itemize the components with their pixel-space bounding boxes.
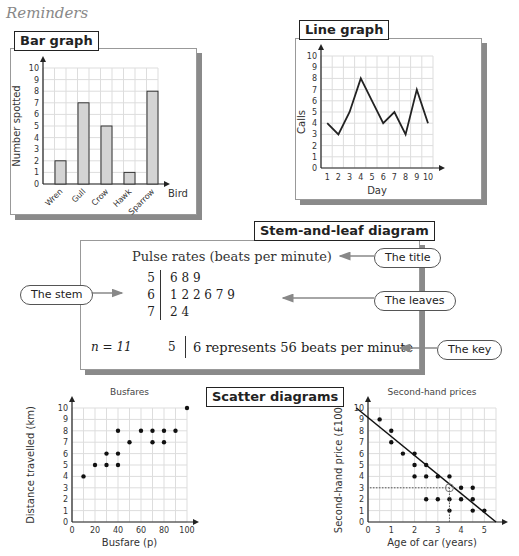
svg-text:5: 5: [63, 461, 68, 470]
svg-text:9: 9: [414, 173, 419, 182]
svg-text:8: 8: [359, 427, 364, 436]
svg-text:0: 0: [365, 526, 370, 535]
svg-text:10: 10: [29, 64, 39, 73]
svg-text:1: 1: [389, 526, 394, 535]
svg-text:2: 2: [312, 142, 317, 151]
svg-text:40: 40: [113, 526, 123, 535]
svg-text:10: 10: [354, 404, 364, 413]
callout-title: The title: [374, 248, 441, 268]
svg-text:3: 3: [347, 173, 352, 182]
svg-text:4: 4: [459, 526, 464, 535]
svg-text:6: 6: [359, 450, 364, 459]
svg-text:2: 2: [63, 495, 68, 504]
svg-text:Busfares: Busfares: [110, 387, 149, 397]
svg-text:3: 3: [312, 130, 317, 139]
svg-text:7: 7: [34, 99, 39, 108]
svg-text:2: 2: [336, 173, 341, 182]
svg-text:3: 3: [63, 484, 68, 493]
svg-text:4: 4: [312, 119, 317, 128]
svg-text:80: 80: [159, 526, 169, 535]
svg-text:6: 6: [63, 450, 68, 459]
callout-key: The key: [437, 340, 502, 360]
svg-text:Busfare (p): Busfare (p): [102, 537, 158, 548]
svg-text:Second-hand price (£1000): Second-hand price (£1000): [333, 397, 344, 534]
svg-text:6: 6: [312, 97, 317, 106]
svg-text:0: 0: [63, 518, 68, 527]
svg-text:8: 8: [312, 74, 317, 83]
callout-leaves: The leaves: [374, 291, 456, 311]
svg-text:3: 3: [435, 526, 440, 535]
svg-text:9: 9: [34, 76, 39, 85]
svg-text:0: 0: [312, 164, 317, 173]
callout-stem: The stem: [20, 285, 93, 305]
svg-text:Second-hand prices: Second-hand prices: [388, 387, 477, 397]
line-graph-tag: Line graph: [299, 20, 389, 40]
svg-text:5: 5: [34, 122, 39, 131]
svg-text:10: 10: [58, 404, 68, 413]
svg-text:7: 7: [312, 86, 317, 95]
svg-text:20: 20: [90, 526, 100, 535]
svg-text:Crow: Crow: [90, 187, 111, 208]
svg-text:4: 4: [359, 472, 364, 481]
stem-leaf-tag: Stem-and-leaf diagram: [254, 221, 435, 241]
svg-text:Age of car (years): Age of car (years): [387, 537, 477, 548]
svg-text:7: 7: [359, 438, 364, 447]
svg-text:5: 5: [369, 173, 374, 182]
svg-text:3: 3: [359, 484, 364, 493]
svg-text:1: 1: [359, 507, 364, 516]
svg-text:6: 6: [381, 173, 386, 182]
svg-text:1: 1: [312, 153, 317, 162]
secondhand-scatter: Second-hand prices012345678910012345Age …: [330, 383, 519, 553]
svg-text:5: 5: [312, 108, 317, 117]
svg-text:Wren: Wren: [43, 187, 64, 208]
svg-text:5: 5: [359, 461, 364, 470]
page-heading: Reminders: [6, 4, 88, 22]
svg-text:0: 0: [69, 526, 74, 535]
svg-text:8: 8: [63, 427, 68, 436]
line-chart: 01234567891012345678910DayCalls: [295, 38, 485, 203]
svg-text:2: 2: [359, 495, 364, 504]
svg-text:100: 100: [179, 526, 194, 535]
svg-text:8: 8: [34, 87, 39, 96]
svg-text:2: 2: [34, 157, 39, 166]
svg-text:Day: Day: [367, 185, 387, 196]
svg-text:Number spotted: Number spotted: [11, 85, 22, 166]
svg-text:1: 1: [34, 168, 39, 177]
svg-text:7: 7: [63, 438, 68, 447]
svg-text:1: 1: [63, 507, 68, 516]
svg-text:Distance travelled (km): Distance travelled (km): [25, 406, 36, 524]
svg-text:8: 8: [403, 173, 408, 182]
svg-text:6: 6: [34, 110, 39, 119]
svg-text:60: 60: [136, 526, 146, 535]
svg-text:9: 9: [312, 63, 317, 72]
svg-text:9: 9: [359, 415, 364, 424]
svg-text:0: 0: [359, 518, 364, 527]
svg-text:3: 3: [34, 145, 39, 154]
svg-text:0: 0: [34, 180, 39, 189]
svg-text:Calls: Calls: [296, 110, 307, 134]
bar-chart: 012345678910WrenGullCrowHawkSparrowBirdN…: [10, 48, 200, 218]
svg-text:9: 9: [63, 415, 68, 424]
bar-graph-tag: Bar graph: [14, 31, 99, 51]
svg-text:10: 10: [423, 173, 433, 182]
svg-text:5: 5: [482, 526, 487, 535]
svg-text:4: 4: [63, 472, 68, 481]
svg-text:Sparrow: Sparrow: [127, 187, 157, 217]
svg-text:Gull: Gull: [70, 187, 87, 204]
svg-text:7: 7: [392, 173, 397, 182]
svg-text:Bird: Bird: [168, 188, 188, 199]
busfares-scatter: Busfares012345678910020406080100Busfare …: [20, 383, 210, 553]
svg-text:1: 1: [325, 173, 330, 182]
scatter-tag: Scatter diagrams: [206, 387, 344, 407]
svg-text:2: 2: [412, 526, 417, 535]
svg-text:10: 10: [307, 52, 317, 61]
svg-text:4: 4: [34, 134, 39, 143]
svg-text:4: 4: [358, 173, 363, 182]
